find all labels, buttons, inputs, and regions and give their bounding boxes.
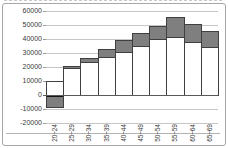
chart-screenshot: 6000050000400003000020000100000-10000-20… xyxy=(0,0,228,148)
bar-gray-segment xyxy=(149,26,167,40)
plot-area: 6000050000400003000020000100000-10000-20… xyxy=(0,0,228,148)
bar-gray-segment xyxy=(201,31,219,48)
y-axis-label: 0 xyxy=(8,91,42,99)
bar-white-segment xyxy=(63,68,81,96)
y-axis-label: 20000 xyxy=(8,63,42,71)
bar-white-segment xyxy=(149,39,167,96)
y-axis-label: 10000 xyxy=(8,77,42,85)
x-axis-label: 30~34 xyxy=(85,118,93,148)
y-axis-label: -20000 xyxy=(8,119,42,127)
bar-white-segment xyxy=(80,62,99,96)
bar-white-segment xyxy=(132,46,150,96)
y-axis-label: 30000 xyxy=(8,49,42,57)
gridline xyxy=(46,11,218,12)
x-axis-label: 40~44 xyxy=(120,118,128,148)
y-axis-tick xyxy=(43,25,46,26)
bar-white-segment xyxy=(98,57,116,96)
x-axis-label: 60~64 xyxy=(189,118,197,148)
bar-gray-segment xyxy=(132,33,150,47)
bar-white-segment xyxy=(184,42,202,96)
bar-white-segment xyxy=(166,37,185,96)
y-axis-tick xyxy=(43,123,46,124)
y-axis-label: 60000 xyxy=(8,7,42,15)
y-axis-label: -10000 xyxy=(8,105,42,113)
gridline xyxy=(46,109,218,110)
bar-white-segment xyxy=(46,81,64,96)
bar-white-segment xyxy=(201,47,219,96)
x-axis-label: 50~54 xyxy=(154,118,162,148)
bar-white-segment xyxy=(115,52,133,96)
bar-gray-segment xyxy=(63,66,81,69)
x-axis-label: 25~29 xyxy=(68,118,76,148)
x-axis-label: 20~24 xyxy=(51,118,59,148)
bar-gray-segment-negative xyxy=(46,95,64,108)
x-label-strip-line xyxy=(6,133,220,134)
bar-gray-segment xyxy=(98,49,116,58)
bar-gray-segment xyxy=(80,58,99,63)
zero-axis-line xyxy=(43,95,218,96)
bar-gray-segment xyxy=(184,24,202,43)
bar-gray-segment xyxy=(166,17,185,38)
y-axis-label: 50000 xyxy=(8,21,42,29)
x-axis-label: 65~69 xyxy=(206,118,214,148)
y-axis-tick xyxy=(43,109,46,110)
y-axis-tick xyxy=(43,67,46,68)
y-axis-tick xyxy=(43,39,46,40)
x-axis-label: 35~39 xyxy=(103,118,111,148)
x-axis-label: 45~49 xyxy=(137,118,145,148)
bar-gray-segment xyxy=(115,40,133,53)
y-axis-tick xyxy=(43,53,46,54)
x-axis-label: 55~59 xyxy=(171,118,179,148)
y-axis-tick xyxy=(43,11,46,12)
y-axis-label: 40000 xyxy=(8,35,42,43)
